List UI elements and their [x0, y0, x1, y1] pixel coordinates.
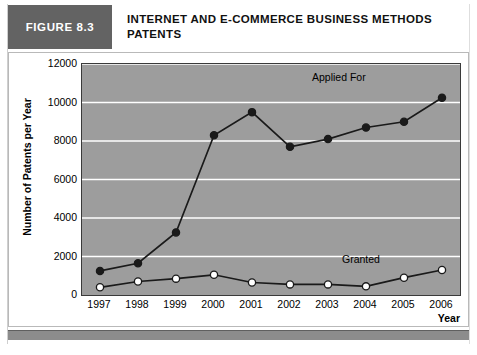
data-point-applied-for-2001: [248, 109, 255, 116]
y-axis-tick-8000: 8000: [31, 134, 77, 146]
y-axis-tick-6000: 6000: [31, 173, 77, 185]
figure-container: FIGURE 8.3 INTERNET AND E-COMMERCE BUSIN…: [0, 0, 477, 355]
data-point-applied-for-2003: [324, 135, 331, 142]
x-axis-tick-labels: 1997199819992000200120022003200420052006: [81, 298, 461, 316]
y-axis-tick-4000: 4000: [31, 211, 77, 223]
figure-bottom-bar: [8, 330, 469, 340]
data-point-granted-1997: [96, 284, 103, 291]
series-granted-line: [100, 270, 442, 287]
data-point-granted-2004: [362, 283, 369, 290]
chart-svg: [82, 64, 460, 295]
y-axis-tick-10000: 10000: [31, 96, 77, 108]
y-axis-tick-2000: 2000: [31, 250, 77, 262]
x-axis-tick-1999: 1999: [163, 298, 186, 310]
x-axis-tick-2000: 2000: [201, 298, 224, 310]
y-axis-tick-12000: 12000: [31, 57, 77, 69]
data-point-granted-2001: [248, 279, 255, 286]
x-axis-tick-2003: 2003: [315, 298, 338, 310]
figure-title-line-1: INTERNET AND E-COMMERCE BUSINESS METHODS: [127, 12, 469, 27]
data-point-applied-for-2004: [362, 124, 369, 131]
plot-area: [81, 63, 461, 296]
x-axis-tick-1998: 1998: [125, 298, 148, 310]
data-point-applied-for-2002: [286, 143, 293, 150]
data-point-granted-2005: [400, 274, 407, 281]
series-applied-for-markers: [96, 94, 445, 274]
data-point-applied-for-1997: [96, 267, 103, 274]
series-granted-markers: [96, 266, 445, 291]
chart-frame: Number of Patents per Year 0200040006000…: [8, 52, 469, 327]
data-point-applied-for-2000: [210, 132, 217, 139]
series-label-granted: Granted: [342, 253, 380, 265]
x-axis-tick-2002: 2002: [277, 298, 300, 310]
gridlines: [82, 64, 460, 257]
data-point-granted-2000: [210, 271, 217, 278]
data-point-granted-2006: [438, 266, 445, 273]
data-point-granted-2003: [324, 281, 331, 288]
figure-title: INTERNET AND E-COMMERCE BUSINESS METHODS…: [115, 5, 469, 49]
x-axis-tick-1997: 1997: [87, 298, 110, 310]
series-label-applied-for: Applied For: [312, 71, 366, 83]
series-applied-for-line: [100, 98, 442, 271]
data-point-applied-for-2005: [400, 118, 407, 125]
x-axis-tick-2005: 2005: [391, 298, 414, 310]
figure-header: FIGURE 8.3 INTERNET AND E-COMMERCE BUSIN…: [8, 5, 469, 49]
y-axis-tick-0: 0: [31, 288, 77, 300]
data-point-granted-1998: [134, 278, 141, 285]
data-point-applied-for-2006: [438, 94, 445, 101]
x-axis-title: Year: [438, 312, 460, 324]
y-axis-tick-labels: 020004000600080001000012000: [29, 53, 77, 328]
figure-title-line-2: PATENTS: [127, 27, 469, 42]
data-point-granted-2002: [286, 281, 293, 288]
x-axis-tick-2006: 2006: [429, 298, 452, 310]
x-axis-tick-2004: 2004: [353, 298, 376, 310]
figure-number-badge: FIGURE 8.3: [8, 5, 112, 49]
data-point-applied-for-1998: [134, 260, 141, 267]
data-point-granted-1999: [172, 275, 179, 282]
x-axis-tick-2001: 2001: [239, 298, 262, 310]
data-point-applied-for-1999: [172, 229, 179, 236]
